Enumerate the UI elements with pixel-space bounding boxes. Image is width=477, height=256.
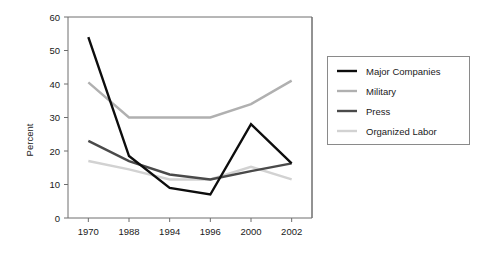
x-tick-label: 2000 bbox=[240, 226, 261, 237]
data-series-group bbox=[88, 37, 291, 194]
y-tick-label: 20 bbox=[49, 146, 60, 157]
legend-label-organized-labor: Organized Labor bbox=[366, 126, 437, 137]
y-tick-label: 10 bbox=[49, 179, 60, 190]
y-tick-label: 0 bbox=[55, 213, 60, 224]
y-tick-label: 50 bbox=[49, 45, 60, 56]
y-axis-title: Percent bbox=[24, 123, 35, 156]
x-tick-label: 1970 bbox=[78, 226, 99, 237]
line-chart: Percent 0102030405060 197019881994199620… bbox=[0, 0, 477, 256]
x-tick-label: 2002 bbox=[281, 226, 302, 237]
x-tick-label: 1996 bbox=[200, 226, 221, 237]
y-axis-title-label: Percent bbox=[24, 123, 35, 156]
y-tick-label: 30 bbox=[49, 112, 60, 123]
series-line-military bbox=[88, 81, 291, 118]
y-tick-label: 60 bbox=[49, 12, 60, 23]
chart-legend: Major CompaniesMilitaryPressOrganized La… bbox=[328, 57, 470, 145]
series-line-press bbox=[88, 141, 291, 180]
x-axis-ticks: 197019881994199620002002 bbox=[78, 218, 302, 237]
y-tick-label: 40 bbox=[49, 79, 60, 90]
x-tick-label: 1988 bbox=[118, 226, 139, 237]
y-axis-ticks: 0102030405060 bbox=[49, 12, 68, 224]
legend-label-major-companies: Major Companies bbox=[366, 66, 441, 77]
legend-label-press: Press bbox=[366, 106, 391, 117]
chart-figure: Percent 0102030405060 197019881994199620… bbox=[0, 0, 477, 256]
x-tick-label: 1994 bbox=[159, 226, 180, 237]
legend-label-military: Military bbox=[366, 86, 396, 97]
